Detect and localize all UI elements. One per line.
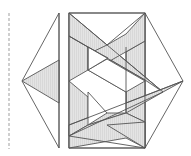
fold-diagram xyxy=(0,0,191,156)
left-flap xyxy=(22,13,59,148)
right-flap xyxy=(145,13,183,148)
